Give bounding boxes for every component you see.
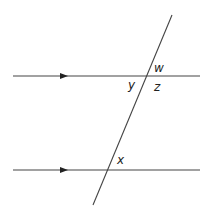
angle-label-x: x [116, 153, 125, 167]
angle-label-w: w [154, 61, 164, 75]
angle-label-z: z [153, 80, 161, 94]
transversal-line [93, 15, 172, 205]
top-line-arrow-icon [60, 73, 68, 79]
angle-label-y: y [127, 78, 136, 92]
parallel-lines-diagram: w y z x [0, 0, 212, 221]
bottom-line-arrow-icon [60, 167, 68, 173]
